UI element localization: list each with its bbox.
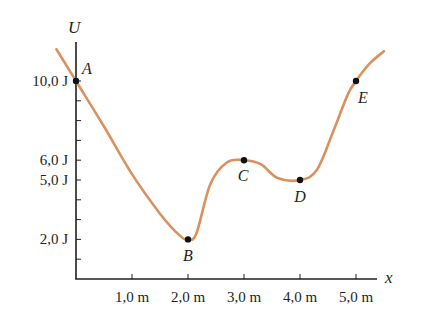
x-tick-label: 4,0 m — [283, 289, 318, 305]
x-tick-label: 1,0 m — [115, 289, 150, 305]
point-d-label: D — [293, 188, 306, 205]
x-tick-label: 5,0 m — [339, 289, 374, 305]
labeled-points: ABCDE — [73, 60, 368, 264]
point-d-marker — [297, 177, 303, 183]
y-tick-label: 2,0 J — [40, 231, 69, 247]
x-tick-label: 3,0 m — [227, 289, 262, 305]
point-c-label: C — [238, 167, 249, 184]
x-tick-label: 2,0 m — [171, 289, 206, 305]
point-e-label: E — [357, 89, 368, 106]
y-tick-labels: 10,0 J6,0 J5,0 J2,0 J — [32, 73, 68, 247]
y-tick-label: 5,0 J — [40, 172, 69, 188]
x-tick-labels: 1,0 m2,0 m3,0 m4,0 m5,0 m — [115, 289, 374, 305]
y-tick-label: 10,0 J — [32, 73, 68, 89]
potential-energy-curve — [56, 49, 384, 240]
x-axis-title: x — [384, 268, 393, 287]
axes — [75, 42, 377, 279]
point-a-marker — [73, 78, 79, 84]
point-e-marker — [353, 78, 359, 84]
point-b-label: B — [183, 247, 193, 264]
point-b-marker — [185, 236, 191, 242]
potential-energy-chart: 10,0 J6,0 J5,0 J2,0 J 1,0 m2,0 m3,0 m4,0… — [0, 0, 426, 326]
point-c-marker — [241, 157, 247, 163]
point-a-label: A — [81, 60, 92, 77]
y-tick-label: 6,0 J — [40, 152, 69, 168]
y-axis-title: U — [68, 18, 82, 37]
